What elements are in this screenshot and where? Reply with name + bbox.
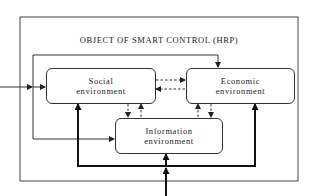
diagram-title: OBJECT OF SMART CONTROL (HRP): [20, 35, 298, 45]
economic-environment-box: Economic environment: [186, 68, 295, 104]
economic-label-line2: environment: [216, 86, 266, 96]
social-label-line2: environment: [76, 86, 126, 96]
economic-label-line1: Economic: [221, 76, 260, 86]
social-environment-box: Social environment: [46, 68, 156, 104]
smart-control-diagram: OBJECT OF SMART CONTROL (HRP) Social env…: [0, 0, 313, 196]
information-label-line2: environment: [144, 136, 194, 146]
information-environment-box: Information environment: [115, 118, 223, 154]
social-label-line1: Social: [89, 76, 114, 86]
information-label-line1: Information: [145, 126, 192, 136]
